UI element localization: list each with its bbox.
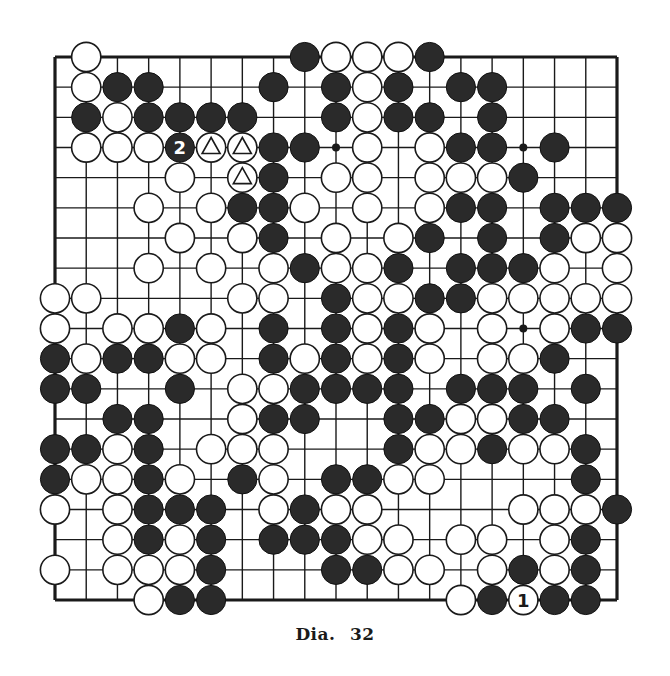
black-stone (290, 133, 319, 162)
white-stone (290, 344, 319, 373)
white-stone (134, 585, 163, 614)
black-stone (290, 495, 319, 524)
white-stone (571, 223, 600, 252)
black-stone (72, 374, 101, 403)
black-stone (103, 404, 132, 433)
black-stone (259, 525, 288, 554)
white-stone (165, 223, 194, 252)
black-stone (478, 374, 507, 403)
white-stone (384, 42, 413, 71)
white-stone (197, 344, 226, 373)
white-stone (353, 163, 382, 192)
caption-number: 32 (350, 624, 375, 644)
black-stone (446, 73, 475, 102)
black-stone (197, 585, 226, 614)
white-stone (228, 404, 257, 433)
white-stone (415, 163, 444, 192)
white-stone (197, 314, 226, 343)
black-stone (134, 465, 163, 494)
white-stone (478, 555, 507, 584)
black-stone (321, 314, 350, 343)
white-stone (384, 223, 413, 252)
black-stone (478, 585, 507, 614)
white-stone (197, 193, 226, 222)
move-number-label: 1 (517, 590, 530, 611)
white-stone (259, 374, 288, 403)
black-stone (509, 374, 538, 403)
star-point (519, 325, 527, 333)
diagram-caption: Dia. 32 (0, 624, 670, 644)
white-stone (353, 314, 382, 343)
white-stone (353, 254, 382, 283)
white-stone (384, 525, 413, 554)
white-stone (478, 284, 507, 313)
white-stone (40, 284, 69, 313)
white-stone (72, 133, 101, 162)
white-stone (103, 495, 132, 524)
black-stone (478, 435, 507, 464)
white-stone (353, 284, 382, 313)
white-stone (103, 314, 132, 343)
white-stone (165, 465, 194, 494)
black-stone (540, 585, 569, 614)
white-stone (259, 435, 288, 464)
white-stone (321, 223, 350, 252)
black-stone (478, 133, 507, 162)
black-stone (509, 404, 538, 433)
white-stone (353, 193, 382, 222)
black-stone (571, 465, 600, 494)
white-stone (509, 344, 538, 373)
white-stone (103, 435, 132, 464)
white-stone (134, 133, 163, 162)
black-stone (72, 435, 101, 464)
white-stone (72, 73, 101, 102)
black-stone (415, 223, 444, 252)
black-stone (540, 193, 569, 222)
star-point (332, 144, 340, 152)
black-stone (228, 103, 257, 132)
white-stone (259, 495, 288, 524)
white-stone (446, 435, 475, 464)
black-stone (540, 133, 569, 162)
black-stone (259, 314, 288, 343)
black-stone (509, 555, 538, 584)
white-stone (478, 404, 507, 433)
white-stone (509, 495, 538, 524)
black-stone (415, 103, 444, 132)
white-stone (353, 495, 382, 524)
black-stone (259, 344, 288, 373)
black-stone (40, 374, 69, 403)
white-stone (384, 284, 413, 313)
white-stone (197, 435, 226, 464)
white-stone (165, 555, 194, 584)
black-stone (321, 465, 350, 494)
white-stone (259, 254, 288, 283)
black-stone (384, 435, 413, 464)
white-stone (40, 555, 69, 584)
black-stone (197, 555, 226, 584)
star-point (519, 144, 527, 152)
black-stone (540, 344, 569, 373)
black-stone (571, 374, 600, 403)
white-stone (540, 254, 569, 283)
white-stone (478, 344, 507, 373)
white-stone (321, 163, 350, 192)
go-board-svg: 21 (0, 0, 670, 640)
black-stone (134, 525, 163, 554)
white-stone (165, 163, 194, 192)
white-stone (415, 193, 444, 222)
black-stone (571, 193, 600, 222)
white-stone (321, 42, 350, 71)
white-stone (415, 133, 444, 162)
white-stone (540, 555, 569, 584)
black-stone (384, 314, 413, 343)
white-stone (540, 314, 569, 343)
black-stone (103, 73, 132, 102)
white-stone (165, 344, 194, 373)
black-stone (353, 555, 382, 584)
black-stone (321, 284, 350, 313)
black-stone (384, 73, 413, 102)
white-stone (353, 42, 382, 71)
black-stone (602, 193, 631, 222)
black-stone (384, 103, 413, 132)
